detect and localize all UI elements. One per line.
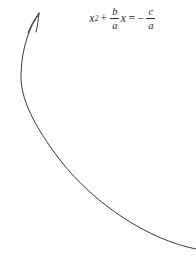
equation-display: x2 + b a x = − c a — [76, 4, 170, 34]
fraction-c-over-a-denominator: a — [147, 20, 155, 31]
plus-operator: + — [100, 13, 107, 25]
fraction-b-over-a-numerator: b — [111, 6, 119, 17]
lhs-term2-variable: x — [121, 13, 126, 25]
equals-operator: = — [128, 13, 135, 25]
fraction-c-over-a-numerator: c — [147, 6, 155, 17]
fraction-b-over-a: b a — [110, 6, 119, 32]
curved-pointer-arrow — [0, 0, 196, 279]
fraction-c-over-a-bar — [146, 18, 155, 19]
rhs-negative-sign: − — [137, 13, 144, 25]
fraction-b-over-a-denominator: a — [111, 20, 119, 31]
arrowhead-barb-right — [36, 13, 39, 32]
fraction-b-over-a-bar — [110, 18, 119, 19]
arrow-shaft-path — [21, 14, 196, 249]
fraction-c-over-a: c a — [146, 6, 155, 32]
lhs-term1-base: x — [89, 13, 94, 25]
equation-expression: x2 + b a x = − c a — [89, 6, 157, 32]
figure-canvas: x2 + b a x = − c a — [0, 0, 196, 279]
arrowhead-barb-left — [28, 13, 39, 33]
